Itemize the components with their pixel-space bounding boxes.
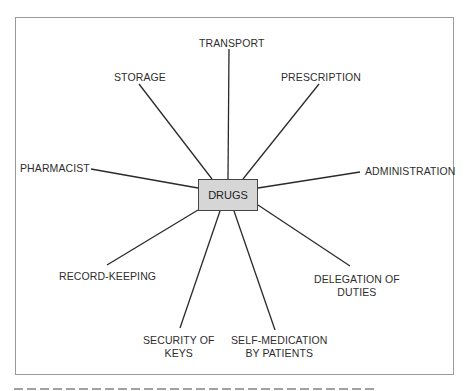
self-medication-line-1: SELF-MEDICATION bbox=[231, 334, 327, 347]
branch-label-administration: ADMINISTRATION bbox=[365, 165, 455, 178]
branch-label-delegation: DELEGATION OF DUTIES bbox=[314, 273, 400, 299]
branch-label-record-keeping: RECORD-KEEPING bbox=[59, 270, 156, 283]
security-line-2: KEYS bbox=[143, 347, 215, 360]
line-transport bbox=[228, 49, 229, 179]
line-administration bbox=[258, 172, 360, 188]
branch-label-self-medication: SELF-MEDICATION BY PATIENTS bbox=[231, 334, 327, 360]
center-node-drugs: DRUGS bbox=[198, 179, 258, 211]
line-delegation bbox=[258, 205, 350, 266]
line-storage bbox=[139, 84, 212, 179]
center-label: DRUGS bbox=[208, 189, 248, 201]
branch-label-security: SECURITY OF KEYS bbox=[143, 334, 215, 360]
line-self-medication bbox=[234, 211, 275, 330]
line-pharmacist bbox=[91, 169, 198, 188]
delegation-line-1: DELEGATION OF bbox=[314, 273, 400, 286]
line-prescription bbox=[243, 84, 319, 179]
figure-caption-clipped bbox=[14, 384, 374, 391]
branch-label-prescription: PRESCRIPTION bbox=[281, 71, 361, 84]
branch-label-transport: TRANSPORT bbox=[199, 37, 264, 50]
security-line-1: SECURITY OF bbox=[143, 334, 215, 347]
line-security bbox=[180, 211, 220, 328]
branch-label-storage: STORAGE bbox=[114, 71, 166, 84]
self-medication-line-2: BY PATIENTS bbox=[231, 347, 327, 360]
branch-label-pharmacist: PHARMACIST bbox=[20, 162, 90, 175]
delegation-line-2: DUTIES bbox=[314, 286, 400, 299]
line-record-keeping bbox=[107, 210, 198, 265]
